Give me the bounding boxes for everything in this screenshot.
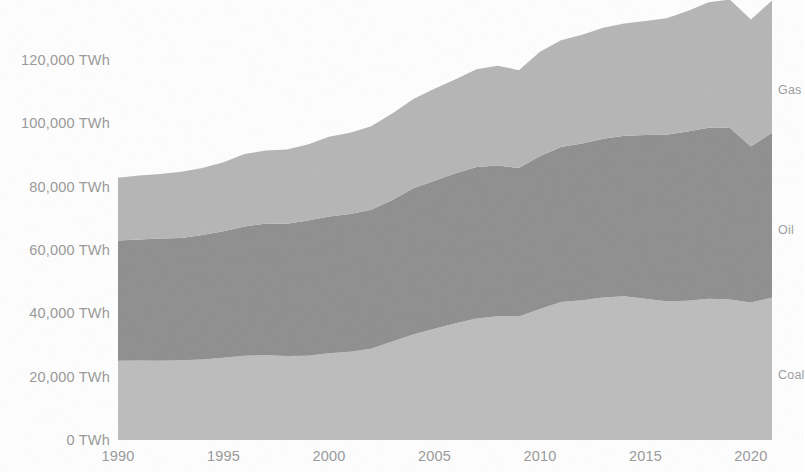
y-axis-tick-20000: 20,000 TWh [29, 369, 110, 385]
y-axis-tick-120000: 120,000 TWh [21, 52, 110, 68]
y-axis-tick-80000: 80,000 TWh [29, 179, 110, 195]
y-axis-tick-100000: 100,000 TWh [21, 115, 110, 131]
y-axis-tick-40000: 40,000 TWh [29, 305, 110, 321]
x-axis-tick-2000: 2000 [312, 448, 345, 464]
y-axis-tick-0: 0 TWh [67, 432, 110, 448]
x-axis-tick-1990: 1990 [101, 448, 134, 464]
series-label-oil: Oil [778, 223, 794, 237]
series-label-gas: Gas [778, 83, 802, 97]
x-axis-tick-2020: 2020 [734, 448, 767, 464]
series-label-coal: Coal [778, 368, 805, 382]
y-axis-tick-60000: 60,000 TWh [29, 242, 110, 258]
x-axis-tick-2010: 2010 [523, 448, 556, 464]
x-axis-tick-2015: 2015 [629, 448, 662, 464]
x-axis-tick-1995: 1995 [207, 448, 240, 464]
x-axis-tick-2005: 2005 [418, 448, 451, 464]
